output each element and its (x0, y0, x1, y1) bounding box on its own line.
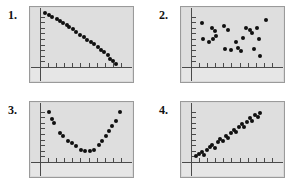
panel-2-data-point (234, 40, 238, 44)
panel-3-y-tick (41, 123, 45, 124)
scatterplot-worksheet: 1. 2. 3. 4. (0, 0, 301, 189)
panel-3-x-tick (97, 158, 98, 162)
panel-3-y-tick (41, 140, 45, 141)
panel-1-x-tick (97, 63, 98, 67)
panel-3-y-tick (41, 134, 45, 135)
panel-1-x-tick (48, 63, 49, 67)
panel-4-x-axis (182, 162, 283, 163)
panel-2-lower-band (182, 68, 283, 81)
panel-2: 2. (151, 0, 301, 94)
panel-2-x-tick (223, 63, 224, 67)
panel-3-y-tick (41, 145, 45, 146)
panel-3-y-tick (41, 128, 45, 129)
panel-3-data-point (107, 129, 111, 133)
panel-2-x-tick (215, 63, 216, 67)
panel-4-y-tick (192, 134, 196, 135)
panel-2-y-tick (192, 28, 196, 29)
panel-2-data-point (207, 40, 211, 44)
panel-3-y-tick (41, 117, 45, 118)
panel-3-x-tick (80, 158, 81, 162)
panel-1-x-tick (89, 63, 90, 67)
panel-2-x-tick (231, 63, 232, 67)
panel-4-data-point (221, 139, 225, 143)
panel-2-data-point (252, 47, 256, 51)
panel-4-data-point (242, 125, 246, 129)
panel-1-x-tick (64, 63, 65, 67)
panel-1-calculator-screen (29, 6, 134, 83)
panel-4-x-tick (240, 158, 241, 162)
panel-2-data-point (257, 37, 261, 41)
panel-3-data-point (100, 139, 104, 143)
panel-3-data-point (66, 139, 70, 143)
panel-3-y-tick (41, 156, 45, 157)
panel-4-data-point (202, 153, 206, 157)
panel-2-data-point (226, 28, 230, 32)
panel-3-data-point (83, 149, 87, 153)
panel-2-data-point (214, 34, 218, 38)
panel-1-x-tick (72, 63, 73, 67)
panel-2-data-point (213, 29, 217, 33)
panel-1: 1. (0, 0, 150, 94)
panel-3-lower-band (31, 163, 132, 176)
panel-2-data-point (222, 24, 226, 28)
panel-1-plot-area (31, 8, 132, 81)
panel-2-y-tick (192, 56, 196, 57)
panel-2-x-tick (240, 63, 241, 67)
panel-4-x-tick (264, 158, 265, 162)
panel-3-data-point (118, 110, 122, 114)
panel-4-x-tick (248, 158, 249, 162)
panel-4-y-tick (192, 123, 196, 124)
panel-4-lower-band (182, 163, 283, 176)
panel-2-y-tick (192, 45, 196, 46)
panel-1-x-tick (105, 63, 106, 67)
panel-1-y-tick (41, 33, 45, 34)
panel-2-plot-area (182, 8, 283, 81)
panel-1-lower-band (31, 68, 132, 81)
panel-3-data-point (97, 143, 101, 147)
panel-2-data-point (201, 37, 205, 41)
panel-3-calculator-screen (29, 101, 134, 178)
panel-2-y-tick (192, 22, 196, 23)
panel-4-data-point (258, 111, 262, 115)
panel-1-x-tick (80, 63, 81, 67)
panel-4-plot-area (182, 103, 283, 176)
panel-4-calculator-screen (180, 101, 285, 178)
panel-2-x-tick (264, 63, 265, 67)
panel-4-data-point (226, 136, 230, 140)
panel-3-x-tick (56, 158, 57, 162)
panel-3-plot-area (31, 103, 132, 176)
panel-2-x-tick (272, 63, 273, 67)
panel-1-data-point (50, 15, 54, 19)
panel-2-data-point (239, 49, 243, 53)
panel-2-data-point (250, 31, 254, 35)
panel-2-y-tick (192, 50, 196, 51)
panel-3-x-axis (31, 162, 132, 163)
panel-2-data-point (258, 54, 262, 58)
panel-3-x-tick (72, 158, 73, 162)
panel-4-y-tick (192, 140, 196, 141)
panel-4-label: 4. (159, 104, 168, 116)
panel-2-y-tick (192, 39, 196, 40)
panel-1-y-tick (41, 22, 45, 23)
panel-3-data-point (79, 148, 83, 152)
panel-3: 3. (0, 95, 150, 189)
panel-3-x-tick (105, 158, 106, 162)
panel-2-calculator-screen (180, 6, 285, 83)
panel-4-y-tick (192, 151, 196, 152)
panel-3-x-tick (121, 158, 122, 162)
panel-2-data-point (264, 18, 268, 22)
panel-1-y-tick (41, 61, 45, 62)
panel-2-y-tick (192, 33, 196, 34)
panel-2-x-tick (199, 63, 200, 67)
panel-1-y-tick (41, 50, 45, 51)
panel-3-data-point (88, 149, 92, 153)
panel-1-data-point (114, 62, 118, 66)
panel-3-data-point (104, 134, 108, 138)
panel-4-x-tick (199, 158, 200, 162)
panel-4-data-point (213, 146, 217, 150)
panel-2-x-tick (248, 63, 249, 67)
panel-1-y-tick (41, 28, 45, 29)
panel-2-data-point (229, 48, 233, 52)
panel-3-data-point (74, 144, 78, 148)
panel-1-x-tick (56, 63, 57, 67)
